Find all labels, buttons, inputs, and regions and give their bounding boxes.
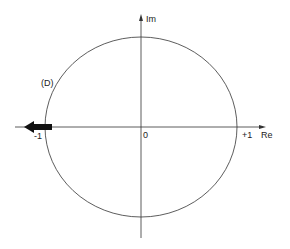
origin-label: 0 <box>143 130 148 140</box>
curve-D-label: (D) <box>41 78 54 88</box>
minus-one-label: -1 <box>34 131 42 141</box>
plus-one-label: +1 <box>242 130 252 140</box>
real-axis-arrowhead-icon <box>259 125 266 129</box>
imaginary-axis-arrowhead-icon <box>139 14 143 21</box>
real-axis-label: Re <box>261 130 273 140</box>
imag-axis-label: Im <box>146 14 156 24</box>
complex-plane-diagram: Im Re 0 +1 -1 (D) <box>0 0 290 249</box>
